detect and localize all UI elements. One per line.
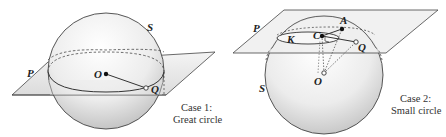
label-o-case1: O xyxy=(94,68,102,80)
point-a xyxy=(340,27,344,31)
label-o-case2: O xyxy=(314,75,322,87)
caption-case1-line1: Case 1: xyxy=(181,102,212,113)
diagram-canvas: S P O Q Case 1: Great circle xyxy=(0,0,446,137)
point-o-case1 xyxy=(104,72,108,76)
point-o-case2 xyxy=(322,71,326,75)
label-p-case2: P xyxy=(253,22,260,34)
label-q-case1: Q xyxy=(151,83,159,95)
point-c xyxy=(320,34,324,38)
case2-small-circle: P K C A Q O S Case 2: Small circle xyxy=(233,10,442,134)
caption-case1-line2: Great circle xyxy=(173,114,223,125)
label-s-case2: S xyxy=(259,82,265,94)
label-k: K xyxy=(286,33,295,45)
point-q-case1 xyxy=(144,86,148,90)
label-q-case2: Q xyxy=(358,41,366,53)
label-a: A xyxy=(339,14,347,26)
caption-case2-line2: Small circle xyxy=(391,105,442,116)
case1-great-circle: S P O Q Case 1: Great circle xyxy=(12,13,223,129)
label-p-case1: P xyxy=(27,67,34,79)
label-c: C xyxy=(313,29,321,41)
label-s-case1: S xyxy=(147,21,153,33)
caption-case2-line1: Case 2: xyxy=(400,93,431,104)
